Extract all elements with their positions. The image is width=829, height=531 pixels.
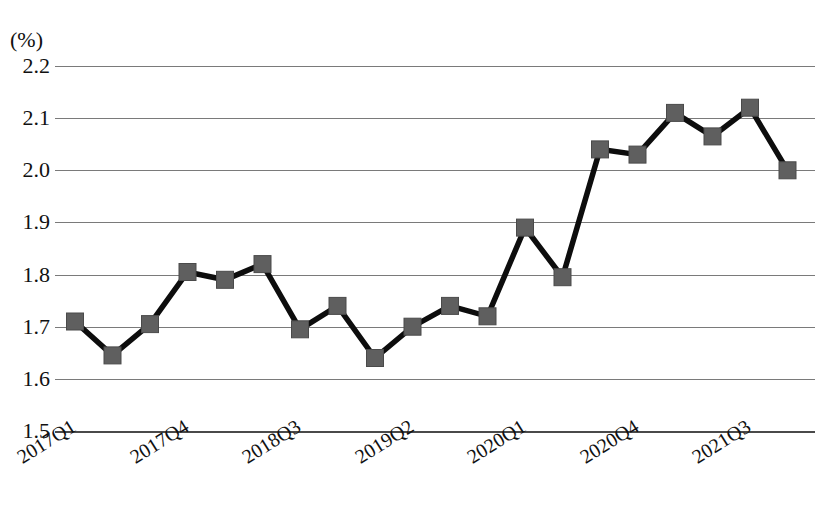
data-point-2018Q1 <box>217 271 234 288</box>
data-point-2017Q1 <box>67 313 84 330</box>
series-markers <box>67 99 797 366</box>
data-point-2021Q4 <box>779 162 796 179</box>
data-point-2019Q1 <box>367 350 384 367</box>
data-point-2020Q3 <box>592 141 609 158</box>
data-point-2018Q4 <box>329 297 346 314</box>
chart-canvas: (%) 2.22.12.01.91.81.71.61.5 2017Q12017Q… <box>0 0 829 531</box>
data-point-2021Q2 <box>704 128 721 145</box>
series-line <box>75 108 788 358</box>
data-point-2017Q4 <box>179 264 196 281</box>
data-point-2017Q2 <box>104 347 121 364</box>
data-point-2021Q1 <box>667 104 684 121</box>
data-point-2020Q1 <box>517 219 534 236</box>
data-point-2020Q4 <box>629 146 646 163</box>
data-point-2019Q4 <box>479 308 496 325</box>
data-point-2018Q3 <box>292 321 309 338</box>
data-point-2021Q3 <box>742 99 759 116</box>
data-point-2019Q3 <box>442 297 459 314</box>
series-svg <box>0 0 829 531</box>
data-point-2019Q2 <box>404 318 421 335</box>
data-point-2017Q3 <box>142 316 159 333</box>
data-point-2020Q2 <box>554 269 571 286</box>
data-point-2018Q2 <box>254 256 271 273</box>
